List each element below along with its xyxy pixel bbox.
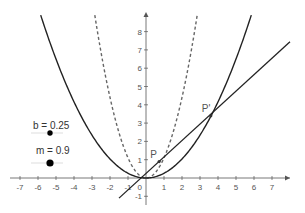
x-tick-label: -4 [70, 183, 78, 192]
x-tick-label: 1 [162, 183, 167, 192]
origin-label: 0 [138, 183, 143, 192]
y-tick-label: 2 [138, 137, 143, 146]
slider-m-knob[interactable] [46, 159, 53, 166]
point-p[interactable] [158, 160, 161, 163]
y-tick-label: 5 [138, 83, 143, 92]
slider-b-knob[interactable] [47, 130, 52, 135]
y-tick-label: 7 [138, 46, 143, 55]
x-axis-arrow-icon [285, 176, 290, 181]
point-p-prime[interactable] [209, 114, 212, 117]
y-tick-label: 1 [138, 156, 143, 165]
graphics-view[interactable]: -7-6-5-4-3-2-11234567-1123456780PP' [0, 0, 305, 213]
x-tick-label: -7 [16, 183, 24, 192]
point-label: P [150, 149, 157, 160]
x-tick-label: 2 [180, 183, 185, 192]
x-tick-label: -2 [106, 183, 114, 192]
x-tick-label: 4 [216, 183, 221, 192]
x-tick-label: -3 [88, 183, 96, 192]
x-tick-label: 7 [270, 183, 275, 192]
point-label: P' [202, 103, 211, 114]
slider-m-label: m = 0.9 [36, 145, 70, 156]
x-tick-label: 6 [252, 183, 257, 192]
y-tick-label: 3 [138, 119, 143, 128]
x-tick-label: 5 [234, 183, 239, 192]
x-tick-label: -5 [52, 183, 60, 192]
line-mx-plus-b[interactable] [119, 42, 290, 198]
y-tick-label: 4 [138, 101, 143, 110]
x-tick-label: 3 [198, 183, 203, 192]
y-tick-label: 8 [138, 28, 143, 37]
y-tick-label: -1 [135, 192, 143, 201]
y-axis-arrow-icon [144, 12, 149, 17]
x-tick-label: -6 [34, 183, 42, 192]
slider-b-label: b = 0.25 [33, 120, 69, 131]
y-tick-label: 6 [138, 64, 143, 73]
